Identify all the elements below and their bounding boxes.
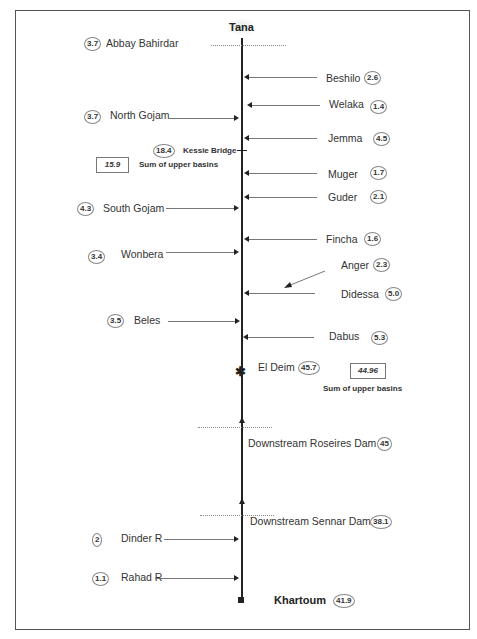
- anger-label: Anger: [341, 259, 369, 271]
- khartoum-terminal-square-icon: [238, 597, 244, 603]
- welaka-value-badge: 1.4: [370, 100, 387, 114]
- didessa-label: Didessa: [341, 288, 379, 300]
- beshilo-flow-line: [247, 77, 317, 78]
- dabus-value-badge: 5.3: [371, 331, 388, 345]
- beshilo-label: Beshilo: [326, 72, 360, 84]
- north-gojam-flow-line: [168, 118, 234, 119]
- eldeim-label: El Deim: [258, 361, 295, 373]
- beles-flow-line: [168, 321, 235, 322]
- muger-value-badge: 1.7: [370, 166, 387, 180]
- abbay-value-badge: 3.7: [84, 37, 101, 51]
- guder-label: Guder: [328, 191, 357, 203]
- arrow-up-icon: [239, 498, 245, 504]
- wonbera-value-badge: 3.4: [88, 250, 105, 264]
- eldeim-sum-box: 44.96: [350, 363, 386, 379]
- south-gojam-value-badge: 4.3: [77, 202, 94, 216]
- khartoum-value-badge: 41.9: [333, 594, 355, 608]
- wonbera-label: Wonbera: [121, 248, 163, 260]
- arrow-up-icon: [239, 417, 245, 423]
- rahad-value-badge: 1.1: [92, 572, 109, 586]
- eldeim-station-star-icon: ✱: [235, 364, 246, 379]
- roseires-value-badge: 45: [377, 437, 392, 451]
- fincha-value-badge: 1.6: [364, 232, 381, 246]
- beles-value-badge: 3.5: [107, 314, 124, 328]
- arrow-left-icon: [247, 102, 252, 108]
- eldeim-sum-label: Sum of upper basins: [323, 384, 402, 393]
- welaka-label: Welaka: [329, 98, 364, 110]
- south-gojam-flow-line: [166, 208, 234, 209]
- south-gojam-label: South Gojam: [103, 202, 164, 214]
- muger-flow-line: [247, 173, 317, 174]
- guder-value-badge: 2.1: [370, 190, 387, 204]
- anger-value-badge: 2.3: [373, 258, 390, 272]
- didessa-flow-line: [247, 293, 315, 294]
- north-gojam-value-badge: 3.7: [84, 110, 101, 124]
- jemma-label: Jemma: [328, 132, 362, 144]
- fincha-flow-line: [247, 239, 317, 240]
- roseires-label: Downstream Roseires Dam: [248, 437, 376, 449]
- wonbera-flow-line: [166, 252, 234, 253]
- rahad-flow-line: [155, 578, 234, 579]
- source-label-tana: Tana: [229, 21, 254, 33]
- abbay-station-marker: [211, 45, 286, 46]
- arrow-right-icon: [234, 115, 239, 121]
- sennar-label: Downstream Sennar Dam: [250, 515, 371, 527]
- rahad-label: Rahad R: [121, 571, 162, 583]
- arrow-left-icon: [244, 290, 249, 296]
- arrow-right-icon: [234, 575, 239, 581]
- beshilo-value-badge: 2.6: [364, 71, 381, 85]
- kessie-sum-box: 15.9: [96, 157, 129, 173]
- dabus-label: Dabus: [329, 330, 359, 342]
- muger-label: Muger: [328, 168, 358, 180]
- didessa-value-badge: 5.0: [385, 287, 402, 301]
- north-gojam-label: North Gojam: [110, 109, 170, 121]
- kessie-sum-label: Sum of upper basins: [139, 160, 218, 169]
- arrow-left-icon: [244, 236, 249, 242]
- arrow-left-icon: [244, 194, 249, 200]
- arrow-left-icon: [244, 170, 249, 176]
- arrow-right-icon: [234, 536, 239, 542]
- dinder-label: Dinder R: [121, 532, 162, 544]
- arrow-left-icon: [244, 135, 249, 141]
- arrow-right-icon: [234, 205, 239, 211]
- khartoum-label: Khartoum: [274, 594, 326, 606]
- anger-flow-arrow-icon: [280, 268, 330, 290]
- welaka-flow-line: [250, 105, 320, 106]
- kessie-bridge-label: Kessie Bridge: [183, 146, 236, 155]
- beles-label: Beles: [134, 314, 160, 326]
- dabus-flow-line: [246, 337, 314, 338]
- kessie-value-badge: 18.4: [153, 144, 175, 158]
- diagram-frame: [15, 10, 470, 630]
- abbay-label: Abbay Bahirdar: [106, 37, 178, 49]
- jemma-flow-line: [247, 138, 317, 139]
- kessie-station-tick: [237, 150, 247, 151]
- eldeim-value-badge: 45.7: [298, 361, 320, 375]
- roseires-station-marker: [198, 427, 272, 428]
- jemma-value-badge: 4.5: [373, 132, 390, 146]
- guder-flow-line: [247, 197, 317, 198]
- sennar-value-badge: 38.1: [370, 515, 392, 529]
- dinder-flow-line: [164, 539, 234, 540]
- arrow-left-icon: [244, 74, 249, 80]
- arrow-right-icon: [234, 249, 239, 255]
- arrow-left-icon: [243, 334, 248, 340]
- fincha-label: Fincha: [326, 233, 358, 245]
- arrow-right-icon: [235, 318, 240, 324]
